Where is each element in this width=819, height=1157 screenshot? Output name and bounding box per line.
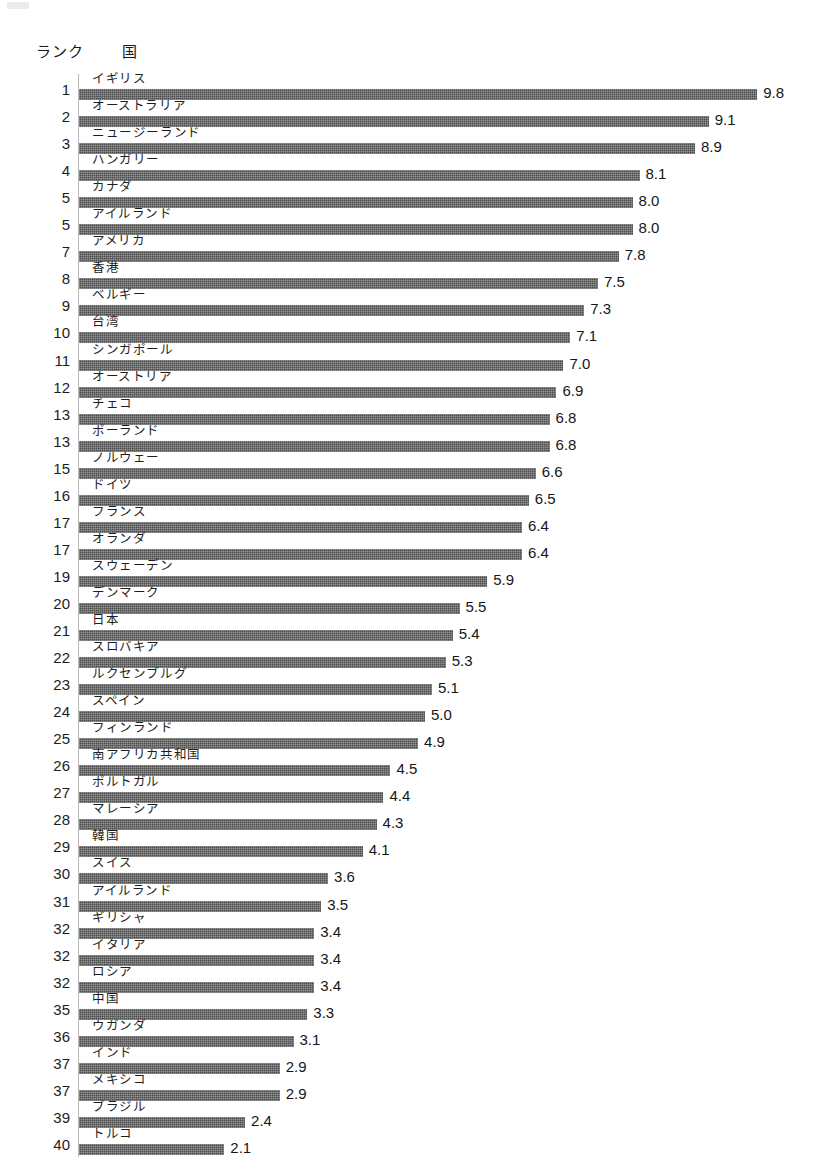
chart-row: 40トルコ2.1	[0, 1129, 819, 1156]
country-label: オランダ	[92, 532, 146, 546]
country-label: ギリシャ	[92, 911, 146, 925]
rank-label: 17	[0, 515, 70, 531]
bar-value-label: 6.4	[528, 518, 549, 534]
rank-label: 39	[0, 1110, 70, 1126]
rank-label: 28	[0, 812, 70, 828]
country-label: 韓国	[92, 829, 119, 843]
rank-label: 30	[0, 866, 70, 882]
country-label: 日本	[92, 613, 119, 627]
country-label: スイス	[92, 856, 133, 870]
chart-row: 5アイルランド8.0	[0, 209, 819, 236]
bar-value-label: 5.4	[459, 626, 480, 642]
chart-row: 17オランダ6.4	[0, 534, 819, 561]
rank-label: 26	[0, 758, 70, 774]
bar-value-label: 3.1	[300, 1032, 321, 1048]
bar-value-label: 3.6	[334, 869, 355, 885]
bar-value-label: 5.1	[438, 680, 459, 696]
chart-row: 17フランス6.4	[0, 507, 819, 534]
rank-label: 13	[0, 407, 70, 423]
bar-value-label: 6.8	[556, 437, 577, 453]
country-label: ノルウェー	[92, 451, 160, 465]
rank-label: 16	[0, 488, 70, 504]
bar-value-label: 8.0	[639, 193, 660, 209]
country-label: アイルランド	[92, 884, 173, 898]
rank-label: 10	[0, 325, 70, 341]
bar-value-label: 2.9	[286, 1086, 307, 1102]
chart-row: 12オーストリア6.9	[0, 372, 819, 399]
bar-value-label: 7.3	[590, 301, 611, 317]
rank-label: 40	[0, 1137, 70, 1153]
chart-row: 32ギリシャ3.4	[0, 913, 819, 940]
country-label: シンガポール	[92, 343, 174, 357]
scan-artifact	[7, 2, 29, 9]
chart-row: 39ブラジル2.4	[0, 1102, 819, 1129]
rank-label: 36	[0, 1029, 70, 1045]
country-label: スペイン	[92, 694, 145, 708]
chart-row: 13ポーランド6.8	[0, 426, 819, 453]
rank-label: 11	[0, 353, 70, 369]
bar-value-label: 3.4	[320, 951, 341, 967]
bar-value-label: 3.4	[320, 978, 341, 994]
bar	[79, 143, 695, 154]
chart-row: 1イギリス9.8	[0, 74, 819, 101]
bar-chart-plot: 1イギリス9.82オーストラリア9.13ニュージーランド8.94ハンガリー8.1…	[0, 74, 819, 1157]
chart-row: 11シンガポール7.0	[0, 345, 819, 372]
rank-label: 32	[0, 948, 70, 964]
rank-label: 27	[0, 785, 70, 801]
chart-row: 32ロシア3.4	[0, 967, 819, 994]
chart-row: 25フィンランド4.9	[0, 723, 819, 750]
chart-row: 35中国3.3	[0, 994, 819, 1021]
country-label: ポーランド	[92, 424, 160, 438]
bar-value-label: 3.4	[320, 924, 341, 940]
chart-row: 27ポルトガル4.4	[0, 777, 819, 804]
bar-value-label: 6.8	[556, 410, 577, 426]
country-label: スウェーデン	[92, 559, 174, 573]
chart-row: 22スロバキア5.3	[0, 642, 819, 669]
bar	[79, 170, 640, 181]
bar-value-label: 2.1	[230, 1140, 251, 1156]
chart-row: 37インド2.9	[0, 1048, 819, 1075]
chart-row: 10台湾7.1	[0, 317, 819, 344]
chart-row: 3ニュージーランド8.9	[0, 128, 819, 155]
rank-label: 19	[0, 569, 70, 585]
country-label: トルコ	[92, 1127, 133, 1141]
country-label: フランス	[92, 505, 146, 519]
bar-value-label: 6.5	[535, 491, 556, 507]
chart-row: 21日本5.4	[0, 615, 819, 642]
bar	[79, 603, 460, 614]
rank-label: 13	[0, 434, 70, 450]
rank-label: 9	[0, 298, 70, 314]
country-label: 香港	[92, 261, 119, 275]
rank-label: 20	[0, 596, 70, 612]
chart-row: 19スウェーデン5.9	[0, 561, 819, 588]
rank-label: 4	[0, 163, 70, 179]
rank-label: 12	[0, 380, 70, 396]
chart-row: 37メキシコ2.9	[0, 1075, 819, 1102]
country-label: オーストリア	[92, 370, 173, 384]
bar-value-label: 4.1	[369, 842, 390, 858]
bar-value-label: 5.9	[493, 572, 514, 588]
country-label: メキシコ	[92, 1073, 146, 1087]
bar	[79, 468, 536, 479]
rank-label: 2	[0, 109, 70, 125]
rank-label: 23	[0, 677, 70, 693]
bar-value-label: 9.1	[715, 112, 736, 128]
rank-label: 5	[0, 217, 70, 233]
bar-value-label: 4.5	[396, 761, 417, 777]
chart-row: 32イタリア3.4	[0, 940, 819, 967]
bar-value-label: 7.5	[604, 274, 625, 290]
rank-label: 8	[0, 271, 70, 287]
country-label: ニュージーランド	[92, 126, 201, 140]
country-label: ウガンダ	[92, 1019, 146, 1033]
country-label: ハンガリー	[92, 153, 160, 167]
bar-value-label: 8.9	[701, 139, 722, 155]
bar-value-label: 7.1	[576, 328, 597, 344]
bar	[79, 278, 598, 289]
rank-label: 21	[0, 623, 70, 639]
country-label: イギリス	[92, 72, 146, 86]
country-label: ブラジル	[92, 1100, 146, 1114]
rank-label: 35	[0, 1002, 70, 1018]
bar-value-label: 7.0	[569, 356, 590, 372]
rank-label: 1	[0, 82, 70, 98]
chart-row: 16ドイツ6.5	[0, 480, 819, 507]
